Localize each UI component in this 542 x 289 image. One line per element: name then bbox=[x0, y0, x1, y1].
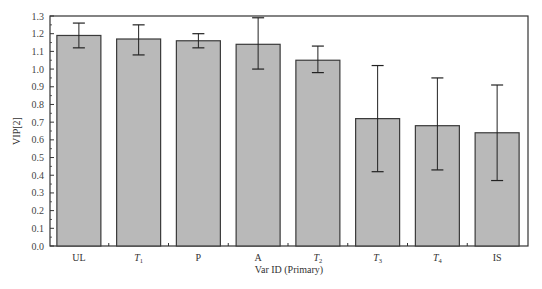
y-tick-label: 0.7 bbox=[32, 117, 45, 128]
vip-bar-chart: 0.00.10.20.30.40.50.60.70.80.91.01.11.21… bbox=[0, 0, 542, 289]
bar bbox=[57, 35, 101, 246]
x-tick-label: UL bbox=[72, 252, 85, 263]
x-tick-label: T4 bbox=[433, 252, 443, 264]
y-tick-label: 0.6 bbox=[32, 134, 45, 145]
y-tick-label: 0.0 bbox=[32, 241, 45, 252]
y-tick-label: 0.8 bbox=[32, 99, 45, 110]
bar bbox=[176, 41, 220, 246]
y-tick-label: 0.9 bbox=[32, 81, 45, 92]
x-tick-label: A bbox=[255, 252, 263, 263]
x-tick-label: IS bbox=[493, 252, 502, 263]
y-tick-label: 0.3 bbox=[32, 187, 45, 198]
y-tick-label: 0.5 bbox=[32, 152, 45, 163]
x-axis-labels: ULT1PAT2T3T4IS bbox=[72, 252, 501, 264]
y-tick-label: 1.1 bbox=[32, 46, 45, 57]
x-tick-label: T3 bbox=[373, 252, 382, 264]
y-tick-label: 1.3 bbox=[32, 11, 45, 22]
y-tick-label: 1.0 bbox=[32, 64, 45, 75]
y-tick-label: 0.1 bbox=[32, 223, 45, 234]
x-axis-title: Var ID (Primary) bbox=[255, 264, 323, 276]
x-tick-label: T1 bbox=[134, 252, 143, 264]
y-axis-title: VIP[2] bbox=[11, 117, 22, 145]
y-tick-label: 0.2 bbox=[32, 205, 45, 216]
x-tick-label: P bbox=[196, 252, 202, 263]
bar bbox=[236, 44, 280, 246]
bar bbox=[117, 39, 161, 246]
y-tick-label: 0.4 bbox=[32, 170, 45, 181]
bar bbox=[296, 60, 340, 246]
x-tick-label: T2 bbox=[313, 252, 322, 264]
y-tick-label: 1.2 bbox=[32, 28, 45, 39]
